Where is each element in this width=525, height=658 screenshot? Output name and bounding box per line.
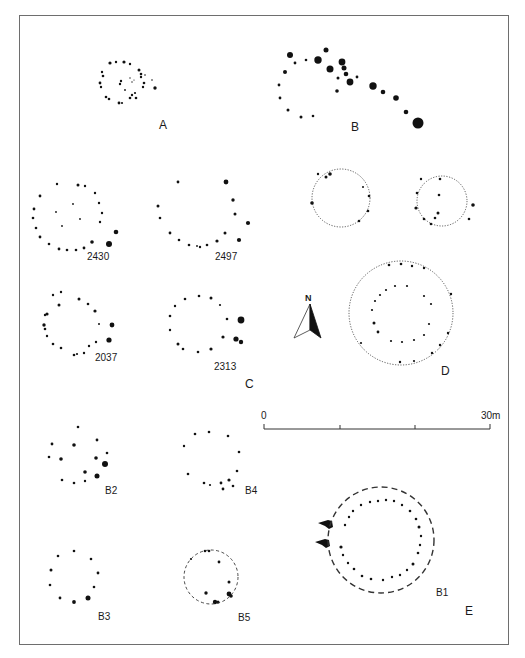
enclosure-outlines [184,169,467,604]
plan-label-2430: 2430 [87,251,109,262]
scale-bar-end-label: 30m [481,410,500,421]
panel-label-b: B [351,120,359,134]
plan-label-b4: B4 [245,485,257,496]
plan-a [99,60,157,104]
plan-label-b2: B2 [105,485,117,496]
panel-label-a: A [159,118,167,132]
plan-label-b3: B3 [98,611,110,622]
plan-label-2497: 2497 [215,251,237,262]
plan-label-2313: 2313 [214,361,236,372]
panel-label-e: E [465,604,473,618]
plan-b [278,48,424,129]
plan-b2 [48,426,109,485]
plan-label-b5: B5 [238,612,250,623]
plan-2497 [157,180,251,249]
plan-2037 [42,291,114,357]
north-arrow-label: N [305,293,312,303]
panel-label-c: C [245,377,254,391]
plan-b3 [49,550,100,604]
scale-bar [264,424,490,429]
plan-d-1 [310,172,370,222]
plan-2313 [169,295,245,354]
scale-bar-start-label: 0 [261,410,267,421]
plan-b4 [183,431,241,491]
site-plans-figure [0,0,525,658]
plan-label-2037: 2037 [95,352,117,363]
plan-b1 [315,499,422,581]
plan-2430 [32,183,119,252]
plan-b5 [190,550,233,605]
plan-d-3 [360,263,452,363]
panel-label-d: D [441,364,450,378]
north-arrow [294,304,321,338]
plan-label-b1: B1 [436,587,448,598]
